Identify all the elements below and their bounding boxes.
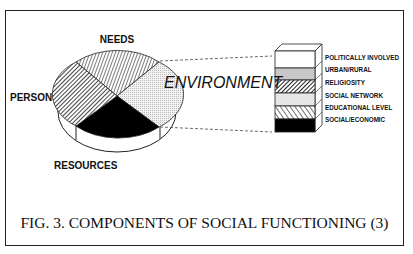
stack-label-politically-involved: POLITICALLY INVOLVED bbox=[325, 54, 400, 61]
stack-label-educational-level: EDUCATIONAL LEVEL bbox=[325, 104, 392, 111]
figure-caption: FIG. 3. COMPONENTS OF SOCIAL FUNCTIONING… bbox=[5, 214, 404, 232]
label-person: PERSON bbox=[10, 92, 52, 103]
stack-label-social-economic: SOCIAL/ECONOMIC bbox=[325, 116, 386, 123]
stack-layer-educational-level bbox=[275, 106, 315, 119]
connector-top-line bbox=[160, 56, 272, 61]
stack-label-social-network: SOCIAL NETWORK bbox=[325, 92, 383, 99]
stack-layer-politically-involved bbox=[275, 51, 315, 68]
label-resources: RESOURCES bbox=[54, 160, 118, 171]
label-environment: ENVIRONMENT bbox=[164, 74, 283, 91]
connector-bottom-line bbox=[160, 127, 272, 132]
stack-label-religiosity: RELIGIOSITY bbox=[325, 79, 366, 86]
stack-layer-social-network bbox=[275, 93, 315, 106]
label-needs: NEEDS bbox=[100, 34, 135, 45]
stack-layer-social-economic bbox=[275, 119, 315, 132]
stack-label-urban-rural: URBAN/RURAL bbox=[325, 66, 372, 73]
